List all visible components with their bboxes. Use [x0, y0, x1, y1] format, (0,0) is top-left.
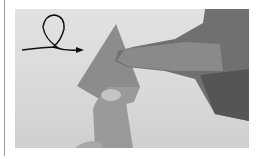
turn-over-arrow-icon	[22, 15, 77, 50]
left-margin-line	[4, 0, 5, 156]
photo-illustration	[15, 9, 249, 148]
arrow-head-icon	[76, 47, 84, 53]
instruction-photo	[15, 9, 249, 148]
